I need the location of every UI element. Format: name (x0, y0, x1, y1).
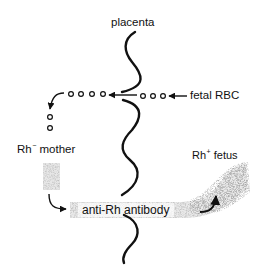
fetal-rbc-label: fetal RBC (190, 90, 239, 102)
arrow-into-maternal-circulation (50, 93, 64, 109)
diagram-canvas (0, 0, 260, 270)
fetal-rbc-circles-maternal-side (48, 92, 106, 131)
fetus-label-sign: + (207, 148, 211, 155)
antibody-label: anti-Rh antibody (82, 204, 169, 216)
mother-label-sign: − (32, 142, 36, 149)
fetus-label-base: Rh (192, 149, 206, 161)
fetus-label-word: fetus (214, 149, 238, 161)
mother-antigen-block (43, 163, 60, 190)
fetus-label: Rh+ fetus (192, 148, 238, 161)
placenta-line (122, 32, 141, 263)
fetus-region (190, 162, 250, 214)
mother-label-word: mother (40, 143, 76, 155)
placenta-label: placenta (111, 17, 154, 29)
fetal-rbc-circles-fetal-side (141, 94, 166, 99)
mother-label: Rh− mother (17, 142, 75, 156)
arrow-mother-to-antibody (49, 194, 66, 209)
mother-label-base: Rh (17, 143, 32, 155)
